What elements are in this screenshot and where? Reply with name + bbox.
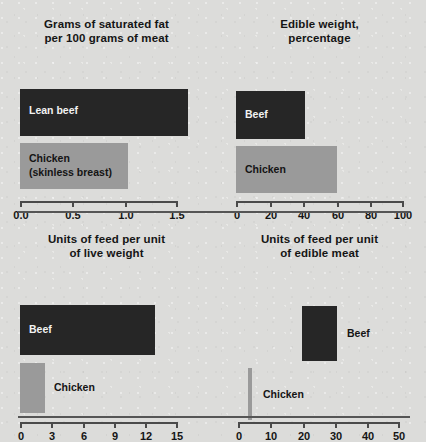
axis-tick (370, 201, 372, 207)
bar-label-chicken: Chicken (245, 163, 286, 175)
panel-feed-live-weight: Units of feed per unit of live weight Be… (0, 210, 213, 437)
bar-beef-feed-live[interactable]: Beef (20, 305, 155, 355)
axis-tick (114, 422, 116, 428)
chart-title-line1: Units of feed per unit (261, 233, 378, 245)
axis-tick (335, 422, 337, 428)
axis-line (236, 201, 404, 203)
chart-title-feed-edible-meat: Units of feed per unit of edible meat (213, 210, 426, 260)
section-divider-top (18, 211, 410, 213)
axis-tick (402, 201, 404, 207)
bar-label-lean-beef: Lean beef (29, 104, 78, 116)
bar-label-beef: Beef (29, 323, 52, 335)
axis-tick-label: 10 (265, 430, 277, 442)
axis-tick (20, 422, 22, 428)
panel-edible-weight: Edible weight, percentage Beef Chicken (213, 0, 426, 210)
axis-tick-label: 40 (362, 430, 374, 442)
chart-title-line2: of live weight (0, 246, 213, 260)
bar-label-beef: Beef (245, 108, 268, 120)
axis-tick-label: 30 (330, 430, 342, 442)
bar-chicken-feed-edible[interactable]: Chicken (248, 368, 252, 420)
chart-title-feed-live-weight: Units of feed per unit of live weight (0, 210, 213, 260)
axis-tick (236, 201, 238, 207)
chart-title-saturated-fat: Grams of saturated fat per 100 grams of … (0, 0, 213, 45)
axis-line (238, 422, 400, 424)
axis-tick-label: 3 (49, 430, 55, 442)
axis-tick (51, 422, 53, 428)
axis-tick-label: 0 (18, 430, 24, 442)
panel-saturated-fat: Grams of saturated fat per 100 grams of … (0, 0, 213, 210)
axis-tick (367, 422, 369, 428)
bar-label-chicken-line2: (skinless breast) (29, 166, 112, 178)
axis-tick-label: 50 (393, 430, 405, 442)
bar-beef-feed-edible[interactable]: Beef (302, 306, 337, 361)
chart-title-line2: per 100 grams of meat (0, 31, 213, 45)
axis-tick-label: 9 (112, 430, 118, 442)
chart-title-line1: Grams of saturated fat (44, 18, 169, 30)
section-divider-bottom (18, 416, 410, 418)
axis-tick (176, 422, 178, 428)
axis-tick (337, 201, 339, 207)
bar-chicken-feed-live[interactable]: Chicken (20, 363, 45, 413)
chart-title-line2: of edible meat (213, 246, 426, 260)
axis-tick (303, 201, 305, 207)
axis-line (20, 422, 178, 424)
axis-tick (125, 201, 127, 207)
axis-tick (176, 201, 178, 207)
axis-tick (398, 422, 400, 428)
bar-lean-beef[interactable]: Lean beef (20, 89, 188, 136)
axis-tick (83, 422, 85, 428)
bar-label-chicken: Chicken (263, 388, 304, 400)
bar-beef-edible[interactable]: Beef (236, 91, 305, 139)
bar-chicken-skinless[interactable]: Chicken (skinless breast) (20, 143, 128, 189)
axis-tick (20, 201, 22, 207)
axis-tick-label: 0 (236, 430, 242, 442)
axis-tick (270, 422, 272, 428)
chart-title-line2: percentage (213, 31, 426, 45)
axis-tick-label: 6 (81, 430, 87, 442)
bar-chicken-edible[interactable]: Chicken (236, 146, 337, 193)
axis-tick-label: 20 (298, 430, 310, 442)
chart-title-edible-weight: Edible weight, percentage (213, 0, 426, 45)
chart-title-line1: Edible weight, (280, 18, 359, 30)
axis-tick (145, 422, 147, 428)
axis-tick (303, 422, 305, 428)
panel-feed-edible-meat: Units of feed per unit of edible meat Be… (213, 210, 426, 437)
axis-tick (238, 422, 240, 428)
bar-label-beef: Beef (347, 327, 370, 339)
bar-label-chicken: Chicken (54, 381, 95, 393)
axis-tick (72, 201, 74, 207)
axis-line (20, 201, 178, 203)
chart-title-line1: Units of feed per unit (48, 233, 165, 245)
axis-tick-label: 15 (171, 430, 183, 442)
bar-label-chicken-line1: Chicken (29, 152, 70, 164)
axis-tick (270, 201, 272, 207)
axis-tick-label: 12 (140, 430, 152, 442)
